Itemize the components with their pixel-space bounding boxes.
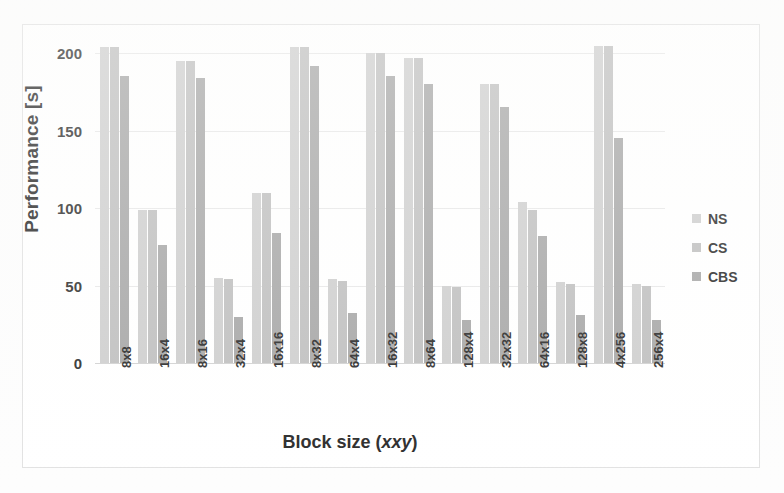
bar-cs-8x16[interactable]: [186, 61, 195, 363]
bar-group: [404, 30, 433, 363]
bar-cbs-16x32[interactable]: [386, 76, 395, 363]
bar-group: [556, 30, 585, 363]
x-tick-label-8x16: 8x16: [195, 339, 210, 368]
x-axis-title-var-y: y: [402, 432, 412, 452]
x-tick-label-64x4: 64x4: [347, 339, 362, 368]
legend-swatch-icon: [692, 272, 701, 281]
bar-ns-128x8[interactable]: [556, 282, 565, 363]
bar-group: [480, 30, 509, 363]
bar-cs-4x256[interactable]: [604, 46, 613, 364]
bar-ns-16x16[interactable]: [252, 193, 261, 363]
x-axis-title-sep: x: [392, 432, 402, 452]
legend-label: CS: [708, 240, 727, 256]
y-axis-ticks: 050100150200: [30, 30, 90, 363]
x-tick-label-64x16: 64x16: [537, 332, 552, 368]
x-tick-label-16x4: 16x4: [157, 339, 172, 368]
x-tick-label-8x32: 8x32: [309, 339, 324, 368]
x-tick-label-32x4: 32x4: [233, 339, 248, 368]
bar-ns-64x4[interactable]: [328, 279, 337, 363]
plot-area: [95, 30, 665, 363]
bar-cbs-4x256[interactable]: [614, 138, 623, 363]
bar-ns-16x4[interactable]: [138, 210, 147, 363]
legend-item-cs[interactable]: CS: [692, 233, 762, 262]
bar-cs-8x32[interactable]: [300, 47, 309, 363]
bar-cbs-32x32[interactable]: [500, 107, 509, 363]
legend-label: CBS: [708, 269, 738, 285]
bar-cbs-8x16[interactable]: [196, 78, 205, 363]
bar-ns-256x4[interactable]: [632, 284, 641, 363]
bar-ns-8x64[interactable]: [404, 58, 413, 363]
bar-group: [594, 30, 623, 363]
bar-ns-128x4[interactable]: [442, 286, 451, 363]
bar-cs-32x32[interactable]: [490, 84, 499, 363]
bar-group: [366, 30, 395, 363]
x-tick-label-16x32: 16x32: [385, 332, 400, 368]
legend-swatch-icon: [692, 243, 701, 252]
bar-ns-32x4[interactable]: [214, 278, 223, 363]
bar-group: [252, 30, 281, 363]
bar-group: [176, 30, 205, 363]
x-axis-title: Block size (xxy): [0, 432, 700, 453]
bar-group: [138, 30, 167, 363]
bar-cs-16x32[interactable]: [376, 53, 385, 363]
bar-cbs-8x8[interactable]: [120, 76, 129, 363]
chart-legend: NSCSCBS: [692, 204, 762, 291]
bar-ns-16x32[interactable]: [366, 53, 375, 363]
legend-swatch-icon: [692, 214, 701, 223]
x-tick-label-8x8: 8x8: [119, 346, 134, 368]
bar-group: [518, 30, 547, 363]
bar-ns-8x16[interactable]: [176, 61, 185, 363]
figure-canvas: Performance [s] 050100150200 8x816x48x16…: [0, 0, 784, 493]
bar-group: [214, 30, 243, 363]
bar-cs-16x16[interactable]: [262, 193, 271, 363]
legend-item-cbs[interactable]: CBS: [692, 262, 762, 291]
bar-cbs-8x64[interactable]: [424, 84, 433, 363]
y-tick-label-50: 50: [65, 277, 82, 294]
bar-cs-8x64[interactable]: [414, 58, 423, 363]
y-tick-label-0: 0: [74, 355, 82, 372]
bar-cs-16x4[interactable]: [148, 210, 157, 363]
legend-item-ns[interactable]: NS: [692, 204, 762, 233]
x-tick-label-128x8: 128x8: [575, 332, 590, 368]
bar-cbs-8x32[interactable]: [310, 66, 319, 363]
bar-ns-8x8[interactable]: [100, 47, 109, 363]
x-tick-label-32x32: 32x32: [499, 332, 514, 368]
bar-ns-64x16[interactable]: [518, 202, 527, 363]
x-axis-title-suffix: ): [412, 432, 418, 452]
y-tick-label-100: 100: [57, 200, 82, 217]
x-axis-title-prefix: Block size (: [282, 432, 381, 452]
x-axis-ticks: 8x816x48x1632x416x168x3264x416x328x64128…: [95, 366, 665, 430]
bar-group: [100, 30, 129, 363]
bar-cs-64x16[interactable]: [528, 210, 537, 363]
legend-label: NS: [708, 211, 727, 227]
bar-group: [328, 30, 357, 363]
x-tick-label-256x4: 256x4: [651, 332, 666, 368]
bar-cs-128x4[interactable]: [452, 287, 461, 363]
bar-ns-8x32[interactable]: [290, 47, 299, 363]
x-tick-label-128x4: 128x4: [461, 332, 476, 368]
bar-cs-32x4[interactable]: [224, 279, 233, 363]
bar-cs-128x8[interactable]: [566, 284, 575, 363]
bar-group: [290, 30, 319, 363]
bar-cs-64x4[interactable]: [338, 281, 347, 363]
x-tick-label-4x256: 4x256: [613, 332, 628, 368]
x-tick-label-8x64: 8x64: [423, 339, 438, 368]
bar-cs-256x4[interactable]: [642, 286, 651, 363]
bar-group: [632, 30, 661, 363]
x-axis-title-var-x: x: [382, 432, 392, 452]
x-tick-label-16x16: 16x16: [271, 332, 286, 368]
bar-group: [442, 30, 471, 363]
y-tick-label-150: 150: [57, 122, 82, 139]
bar-cs-8x8[interactable]: [110, 47, 119, 363]
y-tick-label-200: 200: [57, 45, 82, 62]
bar-ns-32x32[interactable]: [480, 84, 489, 363]
bar-ns-4x256[interactable]: [594, 46, 603, 364]
